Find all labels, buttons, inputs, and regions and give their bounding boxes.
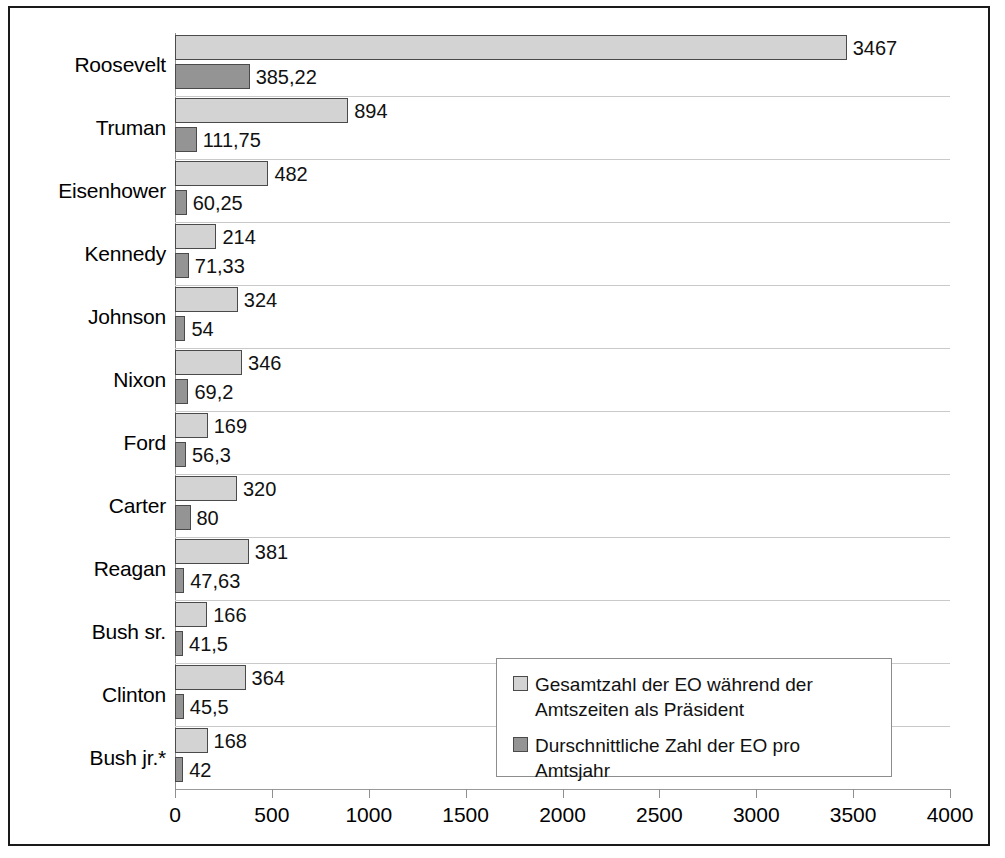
category-label-carter: Carter [109,494,166,518]
bar-avg: 80 [175,505,191,530]
x-axis-tick [466,789,467,798]
chart-frame: Roosevelt3467385,22Truman894111,75Eisenh… [8,6,990,846]
bar-total: 168 [175,728,208,753]
chart-category-row: Nixon34669,2 [175,348,950,411]
bar-value-label: 80 [197,506,219,529]
legend-item-total: Gesamtzahl der EO während der Amtszeiten… [513,672,879,722]
bar-total: 166 [175,602,207,627]
x-axis-tick-label: 2000 [539,803,586,827]
bar-total: 894 [175,98,348,123]
category-label-johnson: Johnson [88,305,166,329]
bar-value-label: 56,3 [192,443,231,466]
chart-category-row: Reagan38147,63 [175,537,950,600]
category-label-eisenhower: Eisenhower [58,179,166,203]
category-label-roosevelt: Roosevelt [74,53,166,77]
category-label-reagan: Reagan [94,557,166,581]
legend-label-total: Gesamtzahl der EO während der Amtszeiten… [535,672,879,722]
chart-category-row: Bush sr.16641,5 [175,600,950,663]
category-label-kennedy: Kennedy [84,242,166,266]
bar-total: 3467 [175,35,847,60]
bar-value-label: 47,63 [190,569,240,592]
category-label-bush-sr: Bush sr. [92,620,166,644]
bar-total: 482 [175,161,268,186]
chart-category-row: Roosevelt3467385,22 [175,33,950,96]
bar-value-label: 71,33 [195,254,245,277]
x-axis-tick-label: 1500 [442,803,489,827]
category-label-ford: Ford [124,431,166,455]
bar-avg: 69,2 [175,379,188,404]
x-axis-tick [853,789,854,798]
bar-avg: 45,5 [175,694,184,719]
bar-total: 381 [175,539,249,564]
x-axis-tick [369,789,370,798]
x-axis-tick-label: 1000 [345,803,392,827]
bar-value-label: 60,25 [193,191,243,214]
x-axis-tick [659,789,660,798]
bar-value-label: 385,22 [256,65,317,88]
chart-category-row: Johnson32454 [175,285,950,348]
bar-value-label: 45,5 [190,695,229,718]
bar-value-label: 41,5 [189,632,228,655]
bar-total: 364 [175,665,246,690]
category-label-bush-jr: Bush jr.* [90,746,166,770]
bar-value-label: 3467 [853,36,898,59]
x-axis-tick-label: 3500 [830,803,877,827]
bar-value-label: 364 [252,666,285,689]
bar-avg: 385,22 [175,64,250,89]
bar-value-label: 214 [222,225,255,248]
bar-avg: 47,63 [175,568,184,593]
bar-total: 320 [175,476,237,501]
bar-total: 169 [175,413,208,438]
bar-value-label: 324 [244,288,277,311]
bar-value-label: 69,2 [194,380,233,403]
legend-swatch-total-icon [513,676,528,691]
chart-category-row: Kennedy21471,33 [175,222,950,285]
legend-item-average: Durschnittliche Zahl der EO pro Amtsjahr [513,733,879,783]
bar-value-label: 346 [248,351,281,374]
bar-value-label: 320 [243,477,276,500]
bar-avg: 56,3 [175,442,186,467]
x-axis-tick [756,789,757,798]
x-axis-tick-label: 2500 [636,803,683,827]
bar-total: 214 [175,224,216,249]
bar-avg: 60,25 [175,190,187,215]
category-label-clinton: Clinton [102,683,166,707]
chart-category-row: Eisenhower48260,25 [175,159,950,222]
x-axis-tick [563,789,564,798]
bar-value-label: 169 [214,414,247,437]
x-axis-tick-label: 3000 [733,803,780,827]
chart-category-row: Truman894111,75 [175,96,950,159]
legend-swatch-average-icon [513,737,528,752]
x-axis-tick-label: 500 [254,803,289,827]
chart-category-row: Carter32080 [175,474,950,537]
x-axis-tick [272,789,273,798]
bar-value-label: 42 [189,758,211,781]
x-axis-tick-label: 0 [169,803,181,827]
chart-category-row: Ford16956,3 [175,411,950,474]
bar-value-label: 168 [214,729,247,752]
bar-avg: 71,33 [175,253,189,278]
bar-value-label: 381 [255,540,288,563]
x-axis-tick [175,789,176,798]
bar-value-label: 482 [274,162,307,185]
bar-avg: 54 [175,316,185,341]
category-label-nixon: Nixon [113,368,166,392]
x-axis-tick-label: 4000 [927,803,974,827]
bar-value-label: 54 [191,317,213,340]
bar-value-label: 166 [213,603,246,626]
x-axis-tick [950,789,951,798]
bar-total: 346 [175,350,242,375]
chart-legend: Gesamtzahl der EO während der Amtszeiten… [496,658,892,777]
bar-avg: 41,5 [175,631,183,656]
bar-total: 324 [175,287,238,312]
bar-avg: 42 [175,757,183,782]
bar-avg: 111,75 [175,127,197,152]
legend-label-average: Durschnittliche Zahl der EO pro Amtsjahr [535,733,879,783]
category-label-truman: Truman [96,116,166,140]
bar-value-label: 894 [354,99,387,122]
bar-value-label: 111,75 [203,128,261,151]
